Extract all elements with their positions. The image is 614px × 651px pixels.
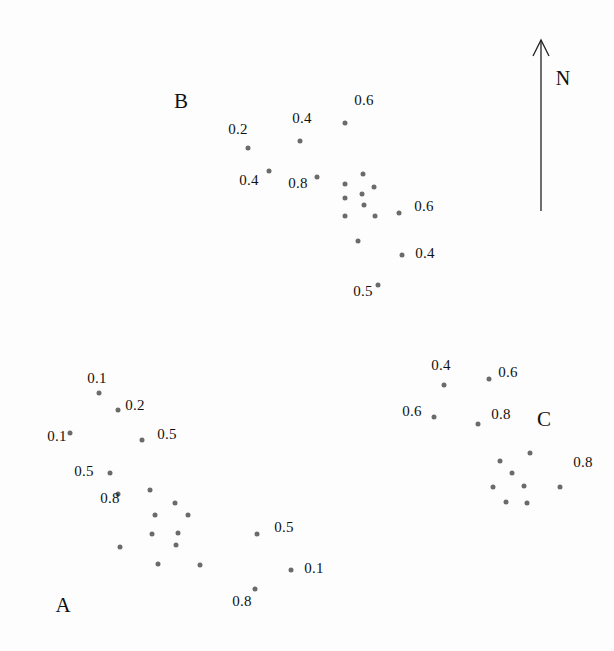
point-value-label: 0.1 bbox=[304, 560, 323, 577]
point-value-label: 0.2 bbox=[228, 121, 247, 138]
data-point bbox=[360, 192, 365, 197]
point-value-label: 0.6 bbox=[498, 364, 517, 381]
point-value-label: 0.8 bbox=[573, 454, 592, 471]
data-point bbox=[362, 203, 367, 208]
data-point bbox=[68, 431, 73, 436]
north-arrow-icon bbox=[0, 0, 614, 651]
data-point bbox=[558, 485, 563, 490]
point-value-label: 0.1 bbox=[47, 428, 66, 445]
point-value-label: 0.4 bbox=[239, 172, 258, 189]
point-value-label: 0.4 bbox=[292, 110, 311, 127]
data-point bbox=[372, 185, 377, 190]
data-point bbox=[522, 484, 527, 489]
data-point bbox=[491, 485, 496, 490]
point-value-label: 0.4 bbox=[431, 357, 450, 374]
cluster-label-a: A bbox=[55, 593, 70, 618]
point-value-label: 0.5 bbox=[74, 463, 93, 480]
data-point bbox=[150, 532, 155, 537]
data-point bbox=[148, 488, 153, 493]
data-point bbox=[267, 169, 272, 174]
point-value-label: 0.6 bbox=[414, 198, 433, 215]
point-value-label: 0.6 bbox=[402, 403, 421, 420]
data-point bbox=[373, 214, 378, 219]
data-point bbox=[176, 531, 181, 536]
data-point bbox=[343, 214, 348, 219]
point-value-label: 0.5 bbox=[274, 519, 293, 536]
data-point bbox=[356, 239, 361, 244]
point-value-label: 0.8 bbox=[232, 593, 251, 610]
data-point bbox=[343, 196, 348, 201]
scatter-map-figure: N BAC 0.10.20.10.50.50.80.50.10.80.60.40… bbox=[0, 0, 614, 651]
data-point bbox=[289, 568, 294, 573]
point-value-label: 0.4 bbox=[415, 245, 434, 262]
point-value-label: 0.8 bbox=[288, 175, 307, 192]
point-value-label: 0.5 bbox=[353, 283, 372, 300]
data-point bbox=[186, 513, 191, 518]
cluster-label-b: B bbox=[174, 89, 188, 114]
data-point bbox=[487, 377, 492, 382]
data-point bbox=[140, 438, 145, 443]
data-point bbox=[343, 182, 348, 187]
north-label: N bbox=[556, 67, 570, 90]
point-value-label: 0.8 bbox=[100, 490, 119, 507]
data-point bbox=[174, 543, 179, 548]
data-point bbox=[361, 172, 366, 177]
cluster-label-c: C bbox=[537, 407, 551, 432]
data-point bbox=[253, 587, 258, 592]
data-point bbox=[498, 459, 503, 464]
data-point bbox=[476, 422, 481, 427]
data-point bbox=[156, 562, 161, 567]
data-point bbox=[108, 471, 113, 476]
data-point bbox=[315, 175, 320, 180]
data-point bbox=[376, 283, 381, 288]
data-point bbox=[442, 383, 447, 388]
point-value-label: 0.8 bbox=[491, 406, 510, 423]
point-value-label: 0.1 bbox=[87, 370, 106, 387]
data-point bbox=[525, 501, 530, 506]
data-point bbox=[432, 415, 437, 420]
data-point bbox=[397, 211, 402, 216]
point-value-label: 0.6 bbox=[354, 92, 373, 109]
data-point bbox=[198, 563, 203, 568]
point-value-label: 0.5 bbox=[157, 426, 176, 443]
data-point bbox=[97, 391, 102, 396]
data-point bbox=[528, 451, 533, 456]
data-point bbox=[118, 545, 123, 550]
data-point bbox=[255, 532, 260, 537]
data-point bbox=[504, 500, 509, 505]
point-value-label: 0.2 bbox=[125, 397, 144, 414]
data-point bbox=[298, 139, 303, 144]
data-point bbox=[116, 408, 121, 413]
data-point bbox=[400, 253, 405, 258]
data-point bbox=[246, 146, 251, 151]
data-point bbox=[153, 513, 158, 518]
data-point bbox=[510, 471, 515, 476]
data-point bbox=[343, 121, 348, 126]
data-point bbox=[173, 501, 178, 506]
